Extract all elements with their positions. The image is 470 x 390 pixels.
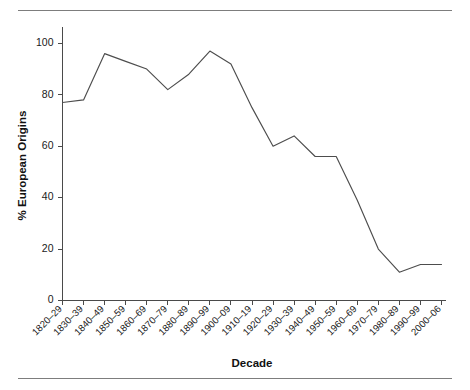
chart-figure: 020406080100 1820–291830–391840–491850–5… (0, 0, 470, 390)
y-tick-label: 20 (42, 242, 54, 254)
x-axis-title: Decade (232, 357, 273, 369)
series-line-european-origins (63, 51, 442, 272)
y-tick-label: 40 (42, 190, 54, 202)
y-axis (58, 27, 63, 301)
x-tick-labels: 1820–291830–391840–491850–591860–691870–… (30, 303, 443, 337)
y-axis-title: % European Origins (16, 111, 28, 221)
y-tick-label: 80 (42, 88, 54, 100)
y-tick-label: 60 (42, 139, 54, 151)
line-chart-plot: 020406080100 1820–291830–391840–491850–5… (0, 0, 470, 390)
y-tick-labels: 020406080100 (36, 36, 54, 305)
y-tick-label: 100 (36, 36, 54, 48)
y-tick-label: 0 (48, 293, 54, 305)
